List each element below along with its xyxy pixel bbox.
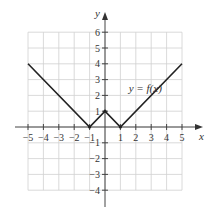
svg-text:−3: −3 — [53, 132, 64, 143]
y-axis-label: y — [94, 7, 100, 19]
svg-text:3: 3 — [95, 74, 100, 85]
svg-text:2: 2 — [133, 132, 138, 143]
svg-text:−2: −2 — [69, 132, 80, 143]
svg-text:−2: −2 — [89, 153, 100, 164]
svg-text:1: 1 — [118, 132, 123, 143]
function-graph: −5−4−3−2−112345−4−3−2−1123456 y = f(x) x… — [0, 0, 217, 215]
svg-text:5: 5 — [180, 132, 185, 143]
svg-text:2: 2 — [95, 90, 100, 101]
svg-text:−4: −4 — [89, 185, 100, 196]
svg-text:−4: −4 — [38, 132, 49, 143]
svg-text:6: 6 — [95, 27, 100, 38]
svg-text:4: 4 — [95, 58, 100, 69]
svg-text:3: 3 — [149, 132, 154, 143]
svg-text:−3: −3 — [89, 169, 100, 180]
x-axis-label: x — [198, 130, 204, 142]
svg-text:−5: −5 — [23, 132, 34, 143]
svg-text:−1: −1 — [89, 137, 100, 148]
svg-text:1: 1 — [95, 106, 100, 117]
svg-text:4: 4 — [164, 132, 169, 143]
svg-text:5: 5 — [95, 43, 100, 54]
curve-label: y = f(x) — [128, 82, 162, 95]
